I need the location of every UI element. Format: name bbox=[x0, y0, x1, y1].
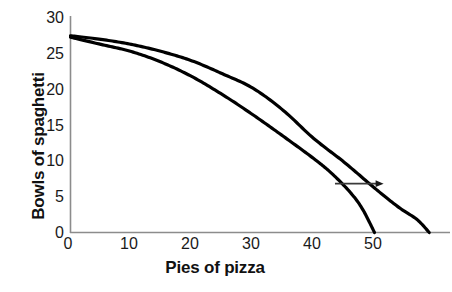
ppf-curve-expanded bbox=[71, 36, 430, 233]
plot-area bbox=[0, 0, 452, 292]
chart-figure: Bowls of spaghetti 30 25 20 15 10 5 0 0 … bbox=[0, 0, 452, 292]
outward-shift-arrow-icon bbox=[335, 180, 384, 187]
ppf-curve-original bbox=[71, 37, 375, 232]
